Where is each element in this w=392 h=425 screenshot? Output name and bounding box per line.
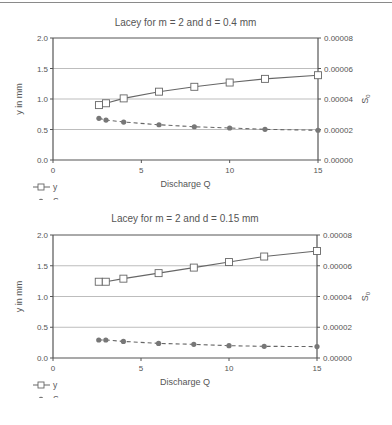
square-marker [315,72,322,79]
circle-marker [226,343,231,348]
y-tick-label: 2.0 [37,34,49,43]
x-tick-label: 0 [51,166,56,175]
circle-marker [121,339,126,344]
x-tick-label: 15 [314,166,323,175]
x-tick-label: 15 [313,364,322,373]
circle-marker [156,341,161,346]
circle-marker [192,124,197,129]
y-axis-label: y in mm [14,83,24,115]
y-axis-label: y in mm [14,281,24,313]
x-axis-label: Discharge Q [160,179,210,189]
y2-tick-label: 0.00002 [323,323,352,332]
x-tick-label: 10 [225,364,234,373]
y2-tick-label: 0.00006 [323,262,352,271]
series-s0 [96,337,319,349]
chart-d-0-15mm: Lacey for m = 2 and d = 0.15 mm0.00.51.0… [0,198,392,398]
y-tick-label: 1.0 [37,293,49,302]
circle-marker [156,122,161,127]
y-tick-label: 2.0 [37,231,49,240]
y2-tick-label: 0.00000 [324,156,353,165]
legend-circle-icon [39,397,44,398]
square-marker [262,75,269,82]
x-tick-label: 10 [225,166,234,175]
y-tick-label: 0.0 [37,156,49,165]
square-marker [314,247,321,254]
circle-marker [103,117,108,122]
x-axis-label: Discharge Q [160,377,210,387]
square-marker [156,88,163,95]
circle-marker [96,337,101,342]
circle-marker [121,119,126,124]
square-marker [226,79,233,86]
legend: yS0 [33,380,63,398]
series-y [95,72,321,109]
y2-tick-label: 0.00000 [323,354,352,363]
legend-label-s0: S0 [53,394,63,398]
y-tick-label: 1.5 [37,262,49,271]
x-tick-label: 0 [51,364,56,373]
square-marker [261,253,268,260]
y2-tick-label: 0.00006 [324,65,353,74]
x-tick-label: 5 [139,166,144,175]
square-marker [191,83,198,90]
y-tick-label: 0.5 [37,323,49,332]
y2-tick-label: 0.00002 [324,126,353,135]
legend-label-y: y [53,380,58,390]
y2-tick-label: 0.00004 [323,293,352,302]
square-marker [190,264,197,271]
circle-marker [191,342,196,347]
y-tick-label: 0.0 [37,354,49,363]
legend-square-icon [38,382,44,388]
square-marker [120,275,127,282]
chart-title: Lacey for m = 2 and d = 0.4 mm [115,17,257,28]
y-tick-label: 0.5 [37,126,49,135]
legend-label-y: y [53,182,58,192]
y2-axis-label: S0 [360,94,371,104]
square-marker [95,278,102,285]
y2-tick-label: 0.00008 [323,231,352,240]
x-tick-label: 5 [139,364,144,373]
series-y [95,247,320,285]
y2-axis-label: S0 [360,291,371,301]
chart-title: Lacey for m = 2 and d = 0.15 mm [111,213,258,224]
series-s0 [96,116,320,133]
square-marker [95,102,102,109]
y-tick-label: 1.0 [37,95,49,104]
chart-d-0-4mm: Lacey for m = 2 and d = 0.4 mm0.00.51.01… [0,0,392,200]
circle-marker [103,337,108,342]
circle-marker [314,344,319,349]
circle-marker [96,116,101,121]
legend-square-icon [38,184,44,190]
square-marker [120,95,127,102]
square-marker [155,270,162,277]
y2-tick-label: 0.00008 [324,34,353,43]
square-marker [102,278,109,285]
circle-marker [315,128,320,133]
circle-marker [262,127,267,132]
square-marker [226,259,233,266]
square-marker [103,100,110,107]
circle-marker [262,344,267,349]
y-tick-label: 1.5 [37,65,49,74]
circle-marker [227,125,232,130]
y2-tick-label: 0.00004 [324,95,353,104]
